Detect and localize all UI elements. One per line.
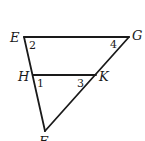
angle-label-1: 1 (37, 77, 44, 90)
vertex-label-g: G (132, 28, 142, 43)
vertex-label-k: K (98, 69, 110, 84)
angle-label-3: 3 (77, 77, 84, 90)
angle-label-4: 4 (110, 38, 117, 51)
angle-label-2: 2 (29, 39, 36, 52)
vertex-label-f: F (38, 134, 49, 141)
segment-gf (45, 37, 129, 131)
geometry-diagram: E G H K F 2 4 1 3 (0, 0, 145, 141)
vertex-label-e: E (9, 30, 20, 45)
vertex-label-h: H (17, 69, 30, 84)
